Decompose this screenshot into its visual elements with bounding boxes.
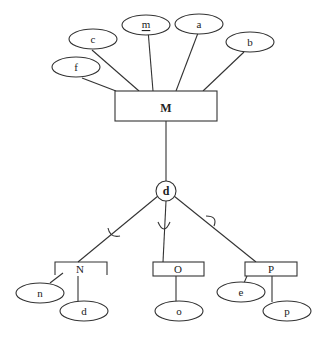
attribute-a: a — [175, 14, 223, 34]
attribute-o-label: o — [176, 305, 182, 317]
attribute-b: b — [226, 32, 274, 52]
connector-d-p — [174, 196, 256, 262]
attribute-o: o — [155, 301, 203, 321]
connector-d-n — [78, 196, 158, 262]
specialization-circle: d — [156, 181, 176, 201]
attribute-d: d — [60, 301, 108, 321]
attribute-m-label: m — [142, 18, 151, 30]
attribute-n: n — [16, 283, 64, 303]
connector-d-o — [163, 201, 166, 262]
attribute-a-label: a — [197, 18, 202, 30]
attribute-e: e — [217, 282, 265, 302]
attribute-f: f — [52, 57, 100, 77]
attribute-n-label: n — [37, 287, 43, 299]
subclass-n-label: N — [76, 263, 84, 275]
er-diagram: f c m a b M d N O — [0, 0, 324, 338]
attribute-p-label: p — [284, 305, 290, 317]
attribute-m-key: m — [122, 15, 170, 35]
connector-a-m — [176, 33, 198, 91]
attribute-c-label: c — [91, 33, 96, 45]
subclass-p: P — [245, 262, 297, 276]
connector-b-m — [203, 52, 244, 91]
subclass-p-label: P — [268, 263, 274, 275]
specialization-label: d — [163, 184, 170, 198]
attribute-f-label: f — [74, 61, 78, 73]
entity-m-label: M — [160, 101, 171, 115]
attribute-e-label: e — [239, 286, 244, 298]
connector-n-attr-n — [50, 273, 63, 283]
attribute-d-label: d — [81, 305, 87, 317]
attribute-p: p — [263, 301, 311, 321]
attribute-b-label: b — [247, 36, 253, 48]
subclass-o: O — [153, 262, 204, 276]
attribute-c: c — [69, 29, 117, 49]
connector-m-attr — [148, 30, 153, 91]
connector-f-m — [82, 78, 116, 91]
subset-symbol-p — [206, 216, 215, 226]
subset-symbol-o — [158, 222, 170, 229]
entity-m: M — [115, 91, 217, 121]
subclass-o-label: O — [174, 263, 182, 275]
